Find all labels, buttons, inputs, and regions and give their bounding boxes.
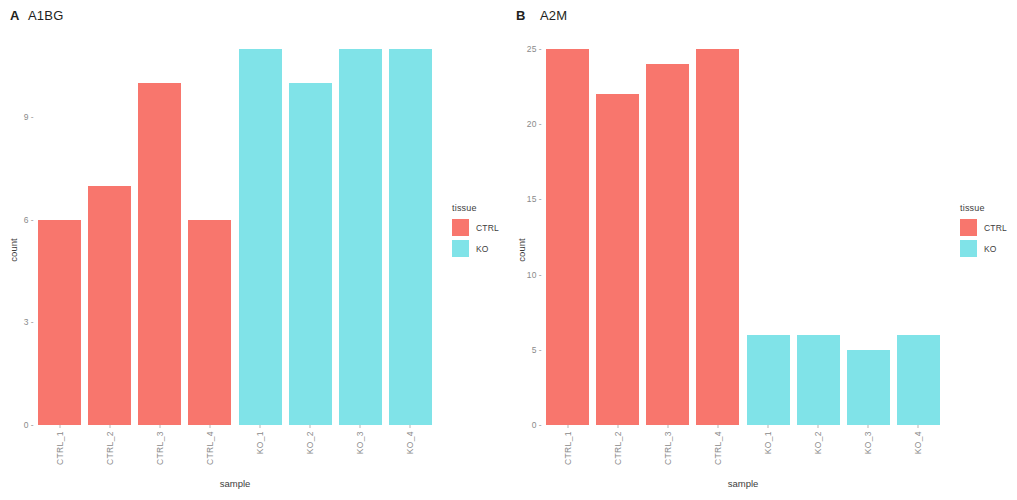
x-tick-label: KO_3	[355, 431, 365, 454]
bar-ko-1[interactable]	[747, 25, 790, 425]
bar-ko-2[interactable]	[289, 25, 332, 425]
x-tick-label: KO_4	[913, 431, 923, 454]
panel-b-legend: tissue CTRL KO	[960, 203, 1016, 261]
x-tick: CTRL_2	[596, 425, 639, 475]
bar-rect	[289, 83, 332, 425]
y-tick-label: 15-	[527, 194, 542, 204]
x-tick-label: KO_2	[813, 431, 823, 454]
panel-b-plot-area	[546, 25, 940, 425]
bar-ctrl-4[interactable]	[188, 25, 231, 425]
panel-a-title: A1BG	[28, 8, 63, 23]
bar-ctrl-2[interactable]	[88, 25, 131, 425]
panel-b-y-axis: 0-5-10-15-20-25-	[508, 25, 546, 425]
y-tick-label: 0-	[24, 420, 34, 430]
x-tick: KO_3	[339, 425, 382, 475]
x-tick: KO_1	[239, 425, 282, 475]
x-tick-mark	[410, 425, 411, 428]
x-tick: KO_2	[289, 425, 332, 475]
bar-ctrl-2[interactable]	[596, 25, 639, 425]
bar-rect	[847, 350, 890, 425]
panel-a-legend-item-ko[interactable]: KO	[452, 240, 508, 257]
x-tick-label: KO_2	[305, 431, 315, 454]
panel-a-legend: tissue CTRL KO	[452, 203, 508, 261]
panel-a: A A1BG count 0-3-6-9- CTRL_1CTRL_2CTRL_3…	[0, 0, 508, 500]
y-tick-label: 3-	[24, 317, 34, 327]
panel-b-legend-label-ctrl: CTRL	[984, 223, 1007, 233]
bar-ko-4[interactable]	[897, 25, 940, 425]
panel-a-tag: A	[10, 8, 20, 23]
x-tick-mark	[59, 425, 60, 428]
y-tick-label: 6-	[24, 215, 34, 225]
bar-rect	[797, 335, 840, 425]
x-tick-mark	[109, 425, 110, 428]
bar-ko-4[interactable]	[389, 25, 432, 425]
bar-rect	[596, 94, 639, 425]
x-tick: KO_1	[747, 425, 790, 475]
x-tick-mark	[717, 425, 718, 428]
bar-rect	[897, 335, 940, 425]
panel-a-bars	[38, 25, 432, 425]
panel-b-legend-item-ko[interactable]: KO	[960, 240, 1016, 257]
bar-rect	[138, 83, 181, 425]
x-tick-mark	[667, 425, 668, 428]
panel-a-legend-label-ctrl: CTRL	[476, 223, 499, 233]
x-tick-mark	[310, 425, 311, 428]
panel-b-x-axis: CTRL_1CTRL_2CTRL_3CTRL_4KO_1KO_2KO_3KO_4	[546, 425, 940, 475]
panel-a-legend-item-ctrl[interactable]: CTRL	[452, 219, 508, 236]
x-tick: KO_3	[847, 425, 890, 475]
x-tick: CTRL_3	[138, 425, 181, 475]
figure-root: A A1BG count 0-3-6-9- CTRL_1CTRL_2CTRL_3…	[0, 0, 1017, 500]
x-tick: CTRL_4	[188, 425, 231, 475]
x-tick-mark	[209, 425, 210, 428]
bar-rect	[188, 220, 231, 425]
x-tick: CTRL_1	[38, 425, 81, 475]
y-tick-label: 25-	[527, 44, 542, 54]
y-tick-label: 0-	[532, 420, 542, 430]
panel-b-legend-label-ko: KO	[984, 244, 997, 254]
x-tick: KO_4	[897, 425, 940, 475]
legend-swatch-ctrl-icon	[452, 219, 469, 236]
x-tick-label: KO_4	[405, 431, 415, 454]
legend-swatch-ko-icon	[960, 240, 977, 257]
panel-a-x-axis: CTRL_1CTRL_2CTRL_3CTRL_4KO_1KO_2KO_3KO_4	[38, 425, 432, 475]
panel-a-legend-title: tissue	[452, 203, 508, 213]
bar-ko-3[interactable]	[339, 25, 382, 425]
bar-ko-1[interactable]	[239, 25, 282, 425]
x-tick-label: CTRL_4	[713, 431, 723, 465]
x-tick-label: CTRL_3	[155, 431, 165, 465]
x-tick-label: CTRL_1	[563, 431, 573, 465]
bar-rect	[747, 335, 790, 425]
bar-rect	[239, 49, 282, 425]
x-tick-label: CTRL_2	[105, 431, 115, 465]
y-tick-label: 10-	[527, 270, 542, 280]
panel-b-legend-title: tissue	[960, 203, 1016, 213]
y-tick-label: 9-	[24, 112, 34, 122]
bar-rect	[546, 49, 589, 425]
bar-ctrl-3[interactable]	[138, 25, 181, 425]
x-tick-mark	[360, 425, 361, 428]
bar-ko-2[interactable]	[797, 25, 840, 425]
x-tick-label: CTRL_4	[205, 431, 215, 465]
x-tick: CTRL_4	[696, 425, 739, 475]
bar-rect	[339, 49, 382, 425]
panel-a-legend-label-ko: KO	[476, 244, 489, 254]
x-tick: KO_2	[797, 425, 840, 475]
x-tick-label: KO_3	[863, 431, 873, 454]
bar-rect	[389, 49, 432, 425]
bar-ctrl-4[interactable]	[696, 25, 739, 425]
x-tick: KO_4	[389, 425, 432, 475]
x-tick-mark	[617, 425, 618, 428]
x-tick-mark	[918, 425, 919, 428]
panel-a-plot-area	[38, 25, 432, 425]
panel-b-legend-item-ctrl[interactable]: CTRL	[960, 219, 1016, 236]
panel-b-x-axis-label: sample	[546, 478, 940, 489]
bar-ko-3[interactable]	[847, 25, 890, 425]
y-tick-label: 5-	[532, 345, 542, 355]
x-tick-label: CTRL_3	[663, 431, 673, 465]
bar-rect	[38, 220, 81, 425]
bar-ctrl-1[interactable]	[38, 25, 81, 425]
panel-b-bars	[546, 25, 940, 425]
x-tick-mark	[159, 425, 160, 428]
bar-ctrl-3[interactable]	[646, 25, 689, 425]
bar-ctrl-1[interactable]	[546, 25, 589, 425]
